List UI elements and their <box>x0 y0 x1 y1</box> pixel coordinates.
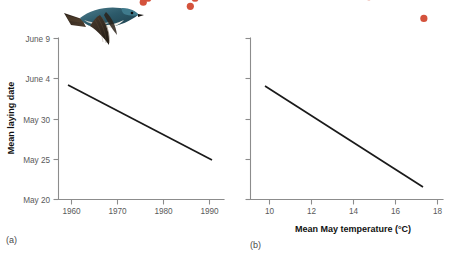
panel-b-xtick-10: 10 <box>265 207 275 216</box>
panel-b-trendline <box>265 86 423 187</box>
panel-a-ytick-may30: May 30 <box>23 116 50 125</box>
panel-a-trendline <box>68 85 212 160</box>
panel-a-y-ticks <box>54 39 59 200</box>
panel-a-ytick-may20: May 20 <box>23 196 50 205</box>
data-point <box>187 3 194 10</box>
panel-a-ytick-may25: May 25 <box>23 156 50 165</box>
data-point <box>191 0 198 2</box>
panel-a: June 9 June 4 May 30 May 25 May 20 1960 … <box>6 0 224 245</box>
panel-b-y-ticks <box>246 39 251 200</box>
panel-a-y-axis-title: Mean laying date <box>6 82 16 155</box>
panel-b-x-ticks <box>270 200 438 205</box>
panel-a-x-ticks <box>72 200 210 205</box>
panel-a-data-points <box>74 0 218 10</box>
data-point <box>420 15 427 22</box>
panel-a-xtick-1990: 1990 <box>200 207 219 216</box>
panel-a-xtick-1980: 1980 <box>154 207 173 216</box>
panel-b-data-points <box>264 0 428 22</box>
panel-a-xtick-1960: 1960 <box>62 207 81 216</box>
panel-b: 10 12 14 16 18 Mean May temperature (°C)… <box>246 0 444 250</box>
panel-b-xtick-12: 12 <box>307 207 317 216</box>
scatter-plots-svg: June 9 June 4 May 30 May 25 May 20 1960 … <box>0 0 451 260</box>
figure-container: June 9 June 4 May 30 May 25 May 20 1960 … <box>0 0 451 260</box>
panel-a-xtick-1970: 1970 <box>108 207 127 216</box>
panel-a-ytick-june4: June 4 <box>25 75 50 84</box>
panel-b-xtick-16: 16 <box>391 207 401 216</box>
panel-b-xtick-14: 14 <box>349 207 359 216</box>
panel-b-x-axis-title: Mean May temperature (°C) <box>295 224 411 234</box>
panel-a-ytick-june9: June 9 <box>25 35 50 44</box>
panel-b-caption: (b) <box>250 240 261 250</box>
panel-b-xtick-18: 18 <box>433 207 443 216</box>
panel-a-caption: (a) <box>6 235 17 245</box>
